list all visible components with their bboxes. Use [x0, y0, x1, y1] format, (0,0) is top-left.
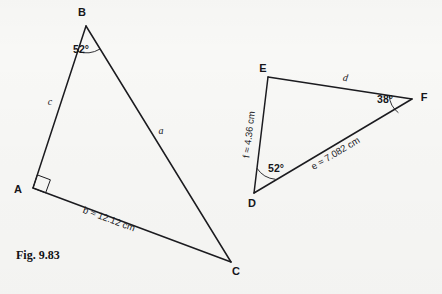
segment-bc-side-a — [86, 26, 231, 262]
triangle-abc: B A C 52° c a b ≈ 12.12 cm — [14, 6, 240, 277]
figure-caption: Fig. 9.83 — [16, 248, 60, 262]
segment-de-side-f — [254, 77, 268, 193]
angle-label-f-38: 38° — [377, 93, 393, 105]
vertex-label-e: E — [259, 62, 266, 74]
geometry-diagram: B A C 52° c a b ≈ 12.12 cm E — [0, 0, 442, 294]
vertex-label-a: A — [14, 183, 22, 195]
vertex-label-f: F — [421, 91, 428, 103]
side-measure-b: b ≈ 12.12 cm — [82, 204, 137, 234]
side-label-c: c — [48, 96, 53, 107]
angle-label-b-52: 52° — [73, 43, 89, 55]
angle-label-d-52: 52° — [268, 162, 284, 174]
side-label-a: a — [159, 125, 164, 136]
right-angle-marker-at-a — [33, 175, 50, 193]
vertex-label-c: C — [232, 265, 240, 277]
triangle-def: E F D 52° 38° d f ≈ 4.36 cm e ≈ 7.082 cm — [240, 62, 427, 209]
side-label-d: d — [342, 72, 350, 84]
figure-canvas: B A C 52° c a b ≈ 12.12 cm E — [0, 0, 442, 294]
vertex-label-d: D — [248, 197, 256, 209]
side-measure-f: f ≈ 4.36 cm — [240, 111, 257, 159]
side-measure-e: e ≈ 7.082 cm — [309, 134, 362, 172]
vertex-label-b: B — [78, 6, 86, 18]
segment-df-side-e — [254, 99, 412, 193]
